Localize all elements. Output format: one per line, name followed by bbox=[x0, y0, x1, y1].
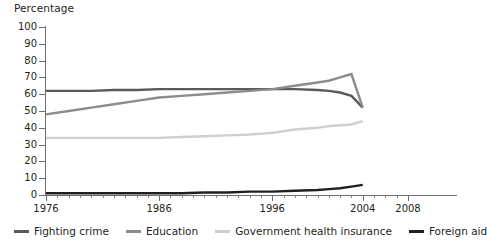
legend-item[interactable]: Foreign aid bbox=[409, 226, 487, 237]
legend-swatch-icon bbox=[126, 230, 141, 233]
series-line bbox=[46, 74, 363, 114]
legend-item[interactable]: Fighting crime bbox=[14, 226, 109, 237]
legend-label: Fighting crime bbox=[34, 226, 109, 237]
legend-swatch-icon bbox=[14, 230, 29, 233]
series-line bbox=[46, 185, 363, 193]
legend-item[interactable]: Education bbox=[126, 226, 198, 237]
series-line bbox=[46, 89, 363, 107]
legend-item[interactable]: Government health insurance bbox=[215, 226, 392, 237]
legend-swatch-icon bbox=[215, 230, 230, 233]
legend-label: Education bbox=[146, 226, 198, 237]
legend-swatch-icon bbox=[409, 230, 424, 233]
legend-label: Foreign aid bbox=[429, 226, 487, 237]
legend-label: Government health insurance bbox=[235, 226, 392, 237]
chart-legend: Fighting crimeEducationGovernment health… bbox=[14, 226, 487, 237]
series-line bbox=[46, 121, 363, 138]
